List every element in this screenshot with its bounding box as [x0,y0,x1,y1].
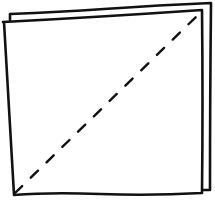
front-sheet [3,10,203,195]
diagram-canvas [0,0,215,202]
paper-fold-diagram [0,0,215,202]
